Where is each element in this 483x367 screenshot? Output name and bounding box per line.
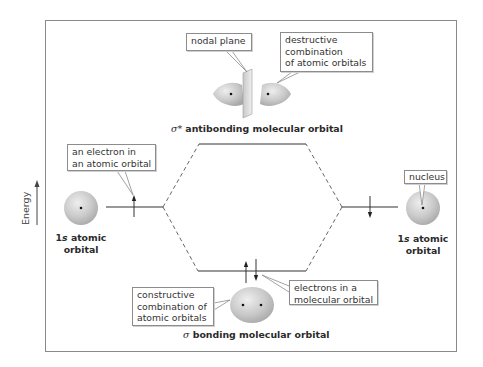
left-1s-orbital-sphere xyxy=(64,191,98,225)
antibonding-caption-text: antibonding molecular orbital xyxy=(185,123,343,134)
bonding-electron-down-arrow xyxy=(254,259,258,281)
nucleus-callout-text: nucleus xyxy=(409,171,445,182)
sigma-symbol: σ xyxy=(183,329,189,340)
constructive-combination-callout: constructive combination of atomic orbit… xyxy=(132,287,214,326)
antibonding-caption: σ* antibonding molecular orbital xyxy=(171,123,343,134)
callout-line: an electron in xyxy=(72,146,151,158)
callout-line: constructive xyxy=(137,289,209,301)
nodal-plane-callout: nodal plane xyxy=(186,33,252,51)
left-1s-atomic-orbital-label: 1s atomic orbital xyxy=(51,232,111,255)
callout-line: combination xyxy=(285,46,368,58)
correlation-lines xyxy=(163,144,342,271)
left-electron-up-arrow xyxy=(132,195,136,217)
bonding-caption-text: bonding molecular orbital xyxy=(193,329,330,340)
callout-line: destructive xyxy=(285,34,368,46)
nucleus-dot xyxy=(422,207,425,210)
electrons-in-molecular-orbital-callout: electrons in a molecular orbital xyxy=(289,280,378,305)
nucleus-callout: nucleus xyxy=(404,170,447,184)
callout-line: electrons in a xyxy=(294,282,373,294)
label-suffix: atomic xyxy=(410,233,449,244)
energy-axis-arrow xyxy=(35,180,40,225)
callout-line: an atomic orbital xyxy=(72,158,151,170)
bonding-orbital-shape xyxy=(230,287,274,323)
label-line2: orbital xyxy=(51,244,111,256)
callout-line: combination of xyxy=(137,301,209,313)
bonding-electron-up-arrow xyxy=(244,261,248,283)
callout-line: of atomic orbitals xyxy=(285,57,368,69)
nucleus-dot xyxy=(80,207,83,210)
electron-in-atomic-orbital-callout: an electron in an atomic orbital xyxy=(67,144,156,171)
label-line2: orbital xyxy=(393,245,453,257)
callout-line: molecular orbital xyxy=(294,294,373,306)
callout-line: atomic orbitals xyxy=(137,312,209,324)
right-1s-atomic-orbital-label: 1s atomic orbital xyxy=(393,233,453,256)
nodal-plane-shape xyxy=(243,69,252,118)
destructive-combination-callout: destructive combination of atomic orbita… xyxy=(280,32,373,72)
energy-axis-label: Energy xyxy=(20,192,31,225)
nodal-plane-callout-text: nodal plane xyxy=(191,35,246,46)
bonding-caption: σ bonding molecular orbital xyxy=(183,329,330,340)
label-suffix: atomic xyxy=(68,232,107,243)
sigma-star-symbol: σ* xyxy=(171,123,182,134)
